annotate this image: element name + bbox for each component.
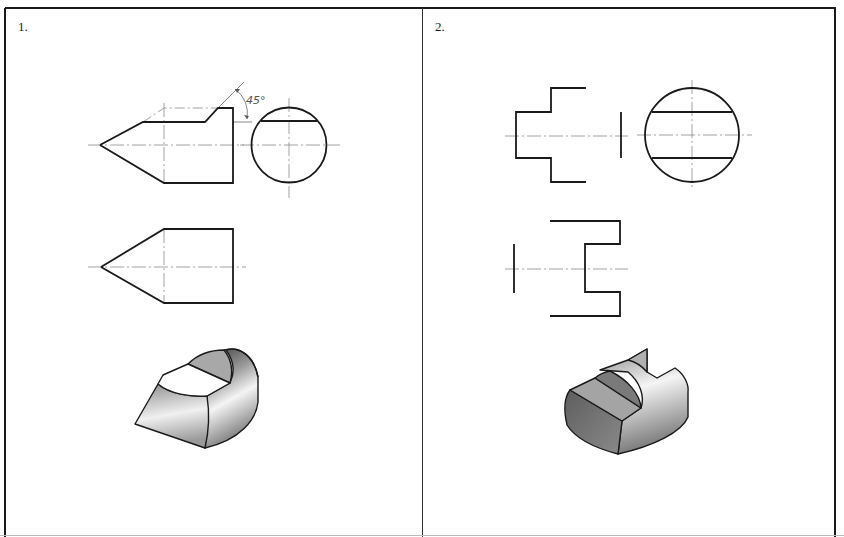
panel-2-isometric-view	[565, 349, 688, 454]
angle-annotation: 45°	[246, 94, 266, 107]
drawing-sheet: 45°	[0, 0, 844, 537]
panel-1-top-view	[88, 229, 246, 303]
panel-2	[505, 80, 752, 454]
sheet-frame	[0, 8, 844, 537]
panel-2-front-view	[505, 88, 628, 182]
panel-2-top-view	[505, 221, 628, 316]
panel-2-number: 2.	[435, 19, 445, 35]
drawing-canvas: 45°	[0, 0, 844, 537]
panel-1-front-view: 45°	[88, 82, 266, 185]
panel-1-side-view	[240, 98, 340, 198]
panel-1-isometric-view	[135, 349, 258, 448]
panel-1: 45°	[88, 82, 340, 448]
panel-1-number: 1.	[18, 19, 28, 35]
panel-2-side-view	[637, 80, 752, 190]
